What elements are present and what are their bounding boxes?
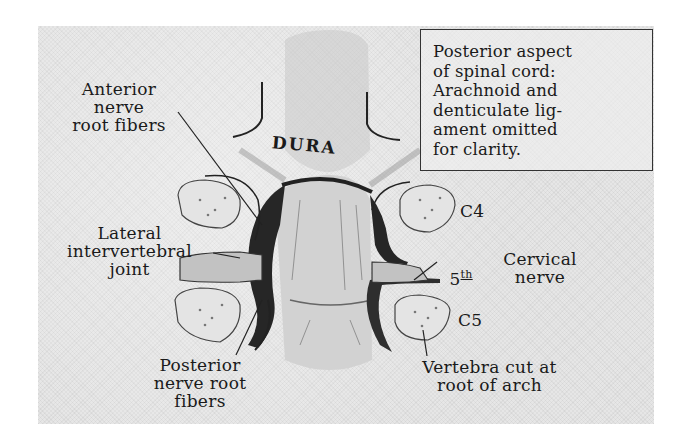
cervical-nerve-suffix: th [461, 268, 473, 281]
label-c4: C4 [460, 202, 484, 220]
right-cervical-nerve-band [372, 262, 428, 283]
note-box: Posterior aspect of spinal cord: Arachno… [420, 29, 653, 171]
label-c5: C5 [458, 311, 482, 329]
label-lateral-intervertebral-joint: Lateral intervertebral joint [42, 224, 217, 278]
cervical-nerve-number: 5 [449, 269, 460, 289]
vertebra-c5-right [395, 295, 450, 340]
vertebra-c5-left [175, 288, 240, 342]
vertebra-c4-right [400, 185, 455, 232]
dura-left-curve [233, 82, 262, 137]
spinal-cord [275, 175, 372, 370]
label-5th-cervical-nerve: 5th [438, 248, 473, 288]
dura-right-curve [367, 92, 400, 140]
label-posterior-nerve-root-fibers: Posterior nerve root fibers [130, 356, 270, 410]
vertebra-c4-left [178, 180, 240, 228]
label-cervical-nerve: Cervical nerve [480, 250, 600, 286]
label-anterior-nerve-root-fibers: Anterior nerve root fibers [44, 80, 194, 134]
note-text: Posterior aspect of spinal cord: Arachno… [433, 42, 572, 159]
label-vertebra-cut: Vertebra cut at root of arch [402, 358, 577, 394]
